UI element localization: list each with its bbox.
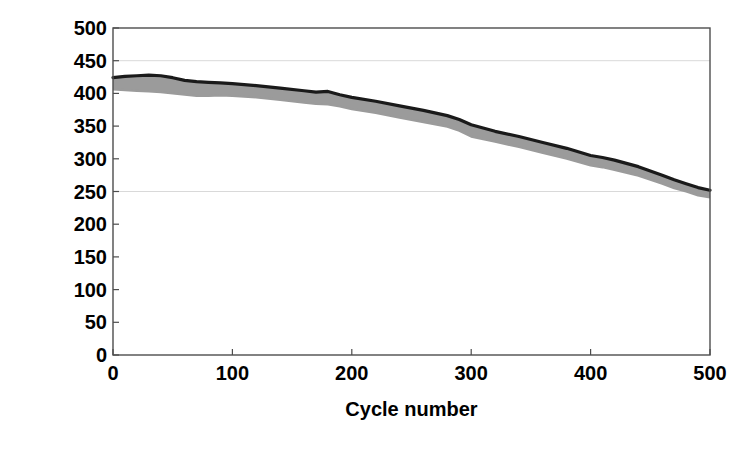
chart-figure: Energy density/mA·h g-1 0501001502002503… xyxy=(0,0,750,453)
plot-area xyxy=(0,0,750,453)
band-fill xyxy=(113,75,710,197)
data-band xyxy=(113,75,710,197)
lower-envelope-line xyxy=(113,89,710,197)
